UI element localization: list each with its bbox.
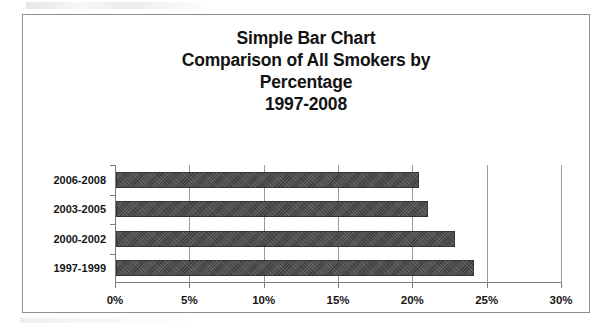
x-axis-tick [561,283,562,288]
chart-title-line-2: Comparison of All Smokers by [23,49,589,71]
category-axis-tick [110,254,115,255]
x-axis-label: 15% [326,294,349,306]
category-axis-label: 1997-1999 [53,262,106,274]
scan-artifact-top [26,2,326,9]
x-axis-label: 5% [181,294,198,306]
x-axis-label: 10% [252,294,275,306]
bar [116,201,428,217]
bar [116,172,419,188]
category-axis-label: 2006-2008 [53,174,106,186]
x-axis-tick [487,283,488,288]
scan-artifact-bottom [20,318,270,323]
plot-area: 0%5%10%15%20%25%30% 2006-20082003-200520… [115,165,561,283]
x-axis-label: 0% [107,294,124,306]
category-axis-tick [110,224,115,225]
chart-title: Simple Bar Chart Comparison of All Smoke… [23,27,589,115]
x-axis-tick [189,283,190,288]
category-axis-tick [110,165,115,166]
category-axis-label: 2000-2002 [53,233,106,245]
x-axis-label: 30% [549,294,572,306]
gridline [487,165,488,283]
bar [116,231,455,247]
x-axis-tick [338,283,339,288]
category-axis-label: 2003-2005 [53,203,106,215]
x-axis-tick [412,283,413,288]
x-axis-label: 20% [401,294,424,306]
chart-title-line-1: Simple Bar Chart [23,27,589,49]
chart-title-line-4: 1997-2008 [23,93,589,115]
chart-title-line-3: Percentage [23,71,589,93]
gridline [561,165,562,283]
x-axis-tick [115,283,116,288]
x-axis-label: 25% [475,294,498,306]
category-axis-tick [110,195,115,196]
x-axis-tick [264,283,265,288]
bar [116,260,474,276]
chart-frame: Simple Bar Chart Comparison of All Smoke… [22,14,590,313]
